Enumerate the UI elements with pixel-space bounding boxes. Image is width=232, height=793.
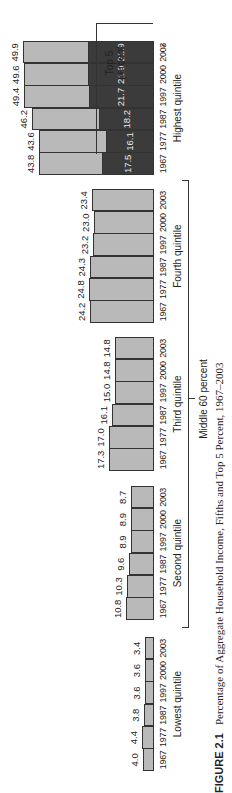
year-tick-label: 1967: [158, 152, 168, 176]
bar-third-2003: [115, 337, 154, 360]
top5-label-line2: percent: [115, 33, 126, 93]
bar-third-1977: [109, 426, 154, 449]
figure-caption: FIGURE 2.1Percentage of Aggregate Househ…: [212, 363, 226, 793]
middle-60-label: Middle 60 percent: [198, 329, 210, 469]
bar-lowest-1987: [144, 704, 154, 727]
value-label: 23.4: [79, 185, 89, 215]
bar-third-1987: [112, 404, 154, 427]
bar-second-1977: [127, 575, 154, 598]
bar-lowest-2000: [145, 659, 154, 682]
year-tick-label: 2000: [158, 508, 168, 532]
bar-fourth-1967: [90, 300, 154, 323]
caption-figure-number: FIGURE 2.1: [213, 733, 225, 793]
bar-lowest-1967: [143, 748, 154, 771]
year-tick-label: 1997: [158, 381, 168, 405]
value-label: 3.4: [132, 633, 142, 663]
year-tick-label: 1977: [158, 575, 168, 599]
top5-label-line1: Top 5: [104, 33, 115, 93]
footnote-asterisk: *: [160, 34, 170, 58]
bar-fourth-1997: [93, 233, 154, 256]
bar-fourth-2000: [94, 211, 154, 234]
year-tick-label: 1997: [158, 530, 168, 554]
bar-third-1967: [109, 448, 154, 471]
year-tick-label: 2003: [158, 336, 168, 360]
year-tick-label: 1987: [158, 255, 168, 279]
bar-lowest-1997: [145, 681, 154, 704]
year-tick-label: 1987: [158, 703, 168, 727]
year-tick-label: 2000: [158, 63, 168, 87]
year-tick-label: 1967: [158, 448, 168, 472]
year-tick-label: 1967: [158, 597, 168, 621]
group-label-highest: Highest quintile: [172, 38, 184, 178]
bar-second-2000: [131, 508, 154, 531]
bar-second-1987: [129, 553, 154, 576]
year-tick-label: 2000: [158, 211, 168, 235]
value-label: 49.9: [10, 37, 20, 67]
bar-second-1967: [126, 597, 154, 620]
bar-lowest-1977: [142, 726, 154, 749]
year-tick-label: 1977: [158, 130, 168, 154]
bar-third-2000: [115, 359, 154, 382]
middle-60-bracket-tick: [188, 398, 195, 399]
bar-second-1997: [131, 530, 154, 553]
group-label-lowest: Lowest quintile: [172, 634, 184, 774]
year-tick-label: 2003: [158, 485, 168, 509]
year-tick-label: 1977: [158, 726, 168, 750]
year-tick-label: 2000: [158, 359, 168, 383]
year-tick-label: 1977: [158, 278, 168, 302]
middle-60-bracket: [182, 180, 189, 628]
year-tick-label: 1967: [158, 300, 168, 324]
year-tick-label: 2003: [158, 636, 168, 660]
year-tick-label: 1987: [158, 107, 168, 131]
year-tick-label: 2000: [158, 659, 168, 683]
year-tick-label: 1987: [158, 403, 168, 427]
year-tick-label: 1997: [158, 233, 168, 257]
year-tick-label: 1977: [158, 426, 168, 450]
bar-third-1997: [115, 381, 154, 404]
year-tick-label: 1987: [158, 552, 168, 576]
top5-label: Top 5 percent: [104, 33, 126, 93]
value-label: 14.8: [102, 333, 112, 363]
bar-fourth-2003: [92, 189, 154, 212]
bar-fourth-1987: [90, 256, 154, 279]
bar-fourth-1977: [89, 278, 154, 301]
year-tick-label: 1967: [158, 748, 168, 772]
year-tick-label: 2003: [158, 188, 168, 212]
year-tick-label: 1997: [158, 681, 168, 705]
year-tick-label: 1997: [158, 85, 168, 109]
caption-text: Percentage of Aggregate Household Income…: [213, 363, 225, 726]
bar-second-2003: [131, 486, 154, 509]
bar-lowest-2003: [145, 637, 154, 660]
value-label: 8.7: [118, 482, 128, 512]
